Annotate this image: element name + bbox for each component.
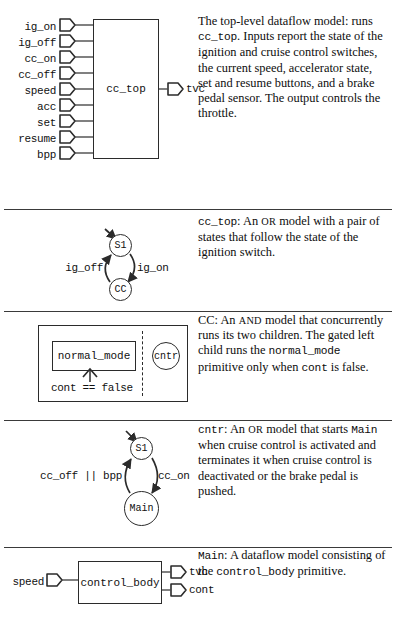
block-label-cc-top: cc_top: [93, 19, 159, 159]
desc-seg-mono: cont: [302, 362, 328, 374]
figure-container: ig_on ig_off cc_on cc_off speed acc set …: [0, 0, 396, 630]
desc-seg-mono: control_body: [216, 566, 294, 578]
desc-seg-mono: cc_top: [198, 31, 237, 43]
diagram-dataflow-main: speed control_body tvc cont: [0, 548, 196, 630]
or-machine-arrows-cc-top: [0, 210, 196, 311]
desc-seg-smallcaps: and: [239, 315, 262, 326]
diagram-or-cntr: S1 Main cc_off || bpp cc_on: [0, 421, 196, 547]
desc-seg: when cruise control is activated and ter…: [198, 438, 376, 498]
or-machine-arrows-cntr: [0, 421, 196, 547]
diagram-dataflow-cc-top: ig_on ig_off cc_on cc_off speed acc set …: [0, 0, 196, 209]
block-label-control-body: control_body: [78, 561, 162, 604]
transition-label-cc-off-or-bpp: cc_off || bpp: [4, 470, 122, 482]
desc-seg-smallcaps: or: [248, 424, 263, 435]
desc-seg: primitive.: [294, 564, 346, 578]
output-label-cont: cont: [189, 584, 214, 596]
desc-seg: primitive only when: [198, 360, 302, 374]
row-cc-and: normal_mode cont == false cntr CC: An an…: [0, 312, 396, 420]
desc-seg-mono: Main: [351, 424, 377, 436]
desc-seg: CC: An: [198, 313, 239, 327]
desc-seg: is false.: [328, 360, 369, 374]
state-node-s1: S1: [109, 234, 132, 257]
state-node-s1: S1: [130, 437, 153, 460]
row-cc-top-or: S1 CC ig_off ig_on cc_top: An or model w…: [0, 210, 396, 311]
desc-seg: : An: [237, 214, 261, 228]
description-dataflow-top: The top-level dataflow model: runs cc_to…: [198, 14, 386, 121]
diagram-or-cc-top: S1 CC ig_off ig_on: [0, 210, 196, 311]
row-cntr-or: S1 Main cc_off || bpp cc_on cntr: An or …: [0, 421, 396, 547]
description-main-dataflow: Main: A dataflow model consisting of the…: [198, 548, 386, 580]
state-node-cc: CC: [109, 278, 132, 301]
desc-seg-mono: cc_top: [198, 216, 237, 228]
row-dataflow-top: ig_on ig_off cc_on cc_off speed acc set …: [0, 0, 396, 209]
desc-seg-mono: normal_mode: [269, 345, 341, 357]
transition-label-ig_off: ig_off: [10, 262, 103, 274]
desc-seg: model that starts: [263, 422, 351, 436]
desc-seg: The top-level dataflow model: runs: [198, 14, 373, 28]
transition-label-cc-on: cc_on: [158, 470, 190, 482]
state-node-main: Main: [124, 491, 159, 526]
gate-condition-label: cont == false: [51, 382, 133, 394]
desc-seg-smallcaps: or: [261, 216, 276, 227]
description-cc-top-or: cc_top: An or model with a pair of state…: [198, 214, 386, 261]
diagram-and-cc: normal_mode cont == false cntr: [0, 312, 196, 420]
description-cntr-or: cntr: An or model that starts Main when …: [198, 422, 386, 499]
row-main-dataflow: speed control_body tvc cont Main: A dat: [0, 548, 396, 630]
desc-seg-mono: cntr: [198, 424, 224, 436]
desc-seg: : An: [224, 422, 248, 436]
transition-label-ig_on: ig_on: [137, 262, 169, 274]
child-node-cntr: cntr: [152, 342, 180, 370]
desc-seg-mono: Main: [198, 550, 224, 562]
description-cc-and: CC: An and model that concurrently runs …: [198, 313, 386, 376]
